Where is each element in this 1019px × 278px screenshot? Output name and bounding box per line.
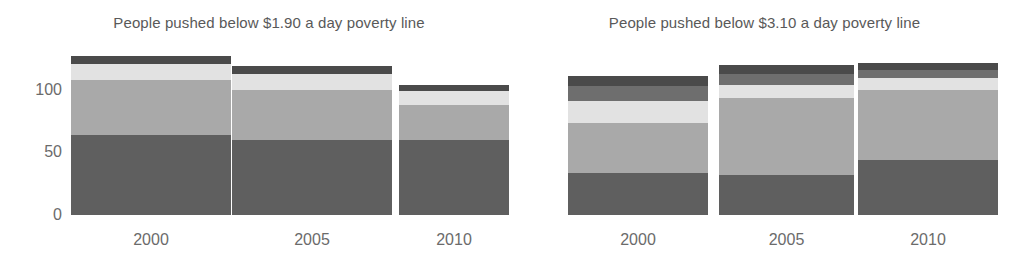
bar-segment-1 bbox=[568, 173, 708, 216]
bar-segment-3 bbox=[232, 74, 392, 90]
bar-segment-5 bbox=[719, 65, 854, 74]
bar-segment-1 bbox=[858, 160, 998, 215]
plot-area-right: 2000 2005 2010 bbox=[510, 0, 1019, 278]
bar-segment-3 bbox=[71, 64, 231, 80]
bar-segment-3 bbox=[719, 85, 854, 98]
bar-segment-1 bbox=[71, 135, 231, 215]
x-label-2010-right: 2010 bbox=[858, 232, 998, 248]
bar-segment-1 bbox=[399, 140, 509, 215]
bar-2010-right[interactable] bbox=[858, 63, 998, 216]
bar-segment-1 bbox=[232, 140, 392, 215]
bar-segment-2 bbox=[232, 90, 392, 140]
bar-2000-right[interactable] bbox=[568, 76, 708, 215]
bar-segment-3 bbox=[399, 91, 509, 105]
x-label-2000-right: 2000 bbox=[568, 232, 708, 248]
bar-segment-2 bbox=[71, 80, 231, 135]
bar-segment-3 bbox=[568, 101, 708, 122]
bar-2000-left[interactable] bbox=[71, 56, 231, 215]
bar-2010-left[interactable] bbox=[399, 85, 509, 215]
bar-2005-left[interactable] bbox=[232, 66, 392, 215]
bar-segment-4 bbox=[858, 70, 998, 78]
panel-poverty-line-1-90: People pushed below $1.90 a day poverty … bbox=[0, 0, 510, 278]
bar-segment-4 bbox=[719, 74, 854, 85]
x-label-2000-left: 2000 bbox=[71, 232, 231, 248]
bar-segment-5 bbox=[568, 76, 708, 86]
x-label-2005-left: 2005 bbox=[232, 232, 392, 248]
panel-poverty-line-3-10: People pushed below $3.10 a day poverty … bbox=[510, 0, 1019, 278]
bar-segment-5 bbox=[858, 63, 998, 71]
bar-segment-3 bbox=[858, 78, 998, 91]
x-label-2010-left: 2010 bbox=[389, 232, 519, 248]
bar-segment-2 bbox=[858, 90, 998, 160]
bar-segment-4 bbox=[232, 66, 392, 74]
bar-segment-2 bbox=[568, 123, 708, 173]
bar-segment-4 bbox=[71, 56, 231, 64]
x-label-2005-right: 2005 bbox=[719, 232, 854, 248]
bar-2005-right[interactable] bbox=[719, 65, 854, 215]
stacked-bar-chart-figure: People pushed below $1.90 a day poverty … bbox=[0, 0, 1019, 278]
bar-segment-2 bbox=[719, 98, 854, 176]
bar-segment-1 bbox=[719, 175, 854, 215]
bar-segment-4 bbox=[568, 86, 708, 101]
plot-area-left: 2000 2005 2010 bbox=[0, 0, 510, 278]
bar-segment-2 bbox=[399, 105, 509, 140]
